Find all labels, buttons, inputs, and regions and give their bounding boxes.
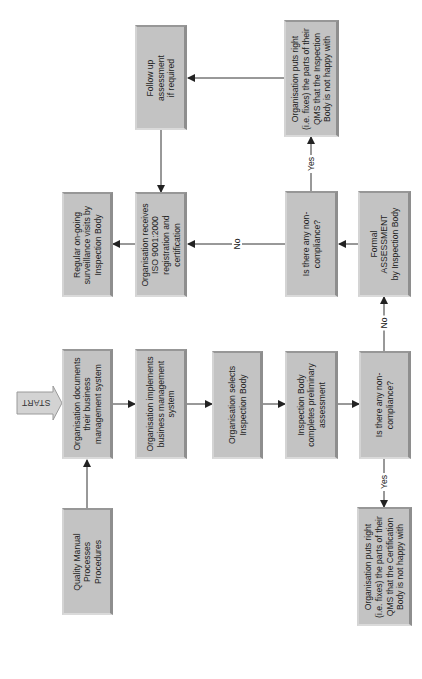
box-text: Organisation selects Inspection Body — [212, 351, 263, 459]
box-text: Organisation puts right (i.e. fixes) the… — [284, 20, 339, 137]
box-text: Organisation documents their business ma… — [62, 349, 113, 459]
box-org-selects: Organisation selects Inspection Body — [212, 351, 263, 459]
box-text: Organisation receives ISO 9001:2000 regi… — [135, 192, 187, 297]
box-formal-assessment: Formal ASSESSMENT by Inspection Body — [358, 191, 411, 297]
edge-label-yes-preliminary: Yes — [379, 473, 389, 491]
box-inspection-preliminary: Inspection Body completes preliminary as… — [285, 351, 338, 459]
box-noncompliance-preliminary: Is there any non- compliance? — [359, 351, 411, 459]
start-label: START — [17, 392, 55, 414]
box-text: Is there any non- compliance? — [359, 351, 411, 459]
box-noncompliance-after-assessment: Is there any non- compliance? — [285, 191, 338, 297]
edge-label-no-preliminary: No — [379, 316, 389, 331]
box-org-puts-right-certification: Organisation puts right (i.e. fixes) the… — [357, 507, 412, 626]
box-text: Organisation puts right (i.e. fixes) the… — [357, 507, 412, 626]
flowchart-canvas: START Follow up assessment if required O… — [0, 0, 422, 679]
box-org-receives-iso: Organisation receives ISO 9001:2000 regi… — [135, 192, 187, 297]
edge-label-yes-after-assessment: Yes — [306, 155, 316, 173]
edge-label-no-after-assessment: No — [232, 237, 242, 252]
box-text: Organisation implements business managem… — [135, 349, 187, 459]
box-quality-manual: Quality Manual Processes Procedures — [62, 508, 113, 615]
box-text: Regular on-going surveillance visits by … — [62, 192, 113, 297]
box-org-implements: Organisation implements business managem… — [135, 349, 187, 459]
box-org-documents: Organisation documents their business ma… — [62, 349, 113, 459]
box-text: Is there any non- compliance? — [285, 191, 338, 297]
box-follow-up-assessment: Follow up assessment if required — [135, 25, 187, 130]
box-text: Inspection Body completes preliminary as… — [285, 351, 338, 459]
box-text: Formal ASSESSMENT by Inspection Body — [358, 191, 411, 297]
box-regular-surveillance: Regular on-going surveillance visits by … — [62, 192, 113, 297]
box-text: Quality Manual Processes Procedures — [62, 508, 113, 615]
box-org-puts-right-inspection: Organisation puts right (i.e. fixes) the… — [284, 20, 339, 137]
box-text: Follow up assessment if required — [135, 25, 187, 130]
